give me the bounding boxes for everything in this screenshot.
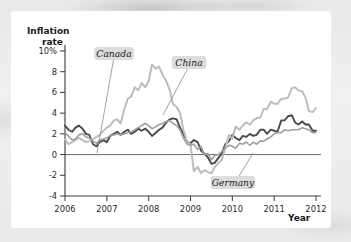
- callout-label-germany: Germany: [212, 177, 255, 188]
- x-tick-labels: 2006200720082009201020112012: [54, 204, 326, 214]
- y-tick-label: 0: [52, 150, 57, 160]
- y-axis-title-line1: Inflation: [27, 26, 69, 36]
- y-axis-title-line2: rate: [42, 37, 63, 47]
- y-tick-label: 2: [52, 129, 57, 139]
- y-tick-label: -2: [49, 170, 57, 180]
- x-tick-label: 2009: [180, 204, 201, 214]
- x-axis-title: Year: [287, 213, 311, 223]
- x-tick-label: 2006: [54, 204, 75, 214]
- x-tick-label: 2008: [138, 204, 159, 214]
- x-tick-label: 2010: [222, 204, 243, 214]
- axis-ticks: [60, 51, 316, 201]
- y-tick-label: 10%: [38, 46, 57, 56]
- y-tick-label: -4: [49, 191, 57, 201]
- y-tick-label: 4: [52, 108, 57, 118]
- x-tick-label: 2007: [96, 204, 117, 214]
- callout-label-canada: Canada: [96, 48, 131, 59]
- y-tick-label: 8: [52, 67, 57, 77]
- figure-card: 10%86420-2-4 200620072008200920102011201…: [11, 11, 331, 228]
- x-tick-label: 2011: [264, 204, 285, 214]
- y-tick-label: 6: [52, 87, 57, 97]
- chart-container: 10%86420-2-4 200620072008200920102011201…: [11, 11, 331, 228]
- callout-label-china: China: [175, 57, 202, 68]
- y-tick-labels: 10%86420-2-4: [38, 46, 57, 201]
- inflation-rate-line-chart: 10%86420-2-4 200620072008200920102011201…: [11, 11, 331, 228]
